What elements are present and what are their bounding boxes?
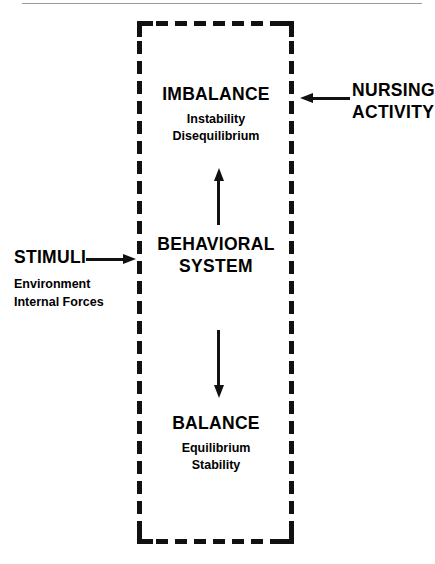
node-balance-subline-1: Equilibrium — [140, 440, 292, 458]
down-arrow-shaft — [217, 330, 220, 387]
label-nursing-activity-line1: NURSING — [352, 80, 435, 102]
right-arrow-icon — [86, 253, 136, 265]
boundary-corner-bottom-left — [137, 528, 142, 544]
left-arrow-icon — [300, 92, 350, 104]
boundary-corner-top-right — [289, 21, 294, 37]
boundary-edge-bottom — [137, 539, 294, 544]
boundary-corner-top-left — [137, 21, 142, 37]
boundary-corner-bottom-right — [289, 528, 294, 544]
node-imbalance: IMBALANCE Instability Disequilibrium — [140, 86, 292, 146]
label-nursing-activity: NURSING ACTIVITY — [352, 80, 435, 124]
node-behavioral-system-heading-line2: SYSTEM — [140, 255, 292, 277]
node-balance: BALANCE Equilibrium Stability — [140, 415, 292, 475]
node-behavioral-system-heading-line1: BEHAVIORAL — [140, 233, 292, 255]
right-arrow-shaft — [86, 258, 125, 261]
down-arrow-head — [214, 385, 224, 398]
node-behavioral-system: BEHAVIORAL SYSTEM — [140, 233, 292, 278]
node-imbalance-subline-2: Disequilibrium — [140, 128, 292, 146]
up-arrow-shaft — [217, 176, 220, 225]
node-balance-subline-2: Stability — [140, 457, 292, 475]
label-stimuli-detail-2: Internal Forces — [14, 294, 104, 312]
up-arrow-icon — [213, 168, 225, 225]
node-imbalance-heading: IMBALANCE — [140, 86, 292, 104]
label-stimuli-detail-1: Environment — [14, 276, 104, 294]
boundary-edge-top — [137, 21, 294, 26]
down-arrow-icon — [213, 330, 225, 398]
left-arrow-shaft — [311, 97, 350, 100]
right-arrow-head — [123, 254, 136, 264]
node-balance-heading: BALANCE — [140, 415, 292, 433]
node-imbalance-subline-1: Instability — [140, 111, 292, 129]
scan-rule-line — [22, 3, 422, 4]
behavioral-system-diagram: IMBALANCE Instability Disequilibrium BEH… — [0, 0, 435, 564]
label-nursing-activity-line2: ACTIVITY — [352, 102, 435, 124]
